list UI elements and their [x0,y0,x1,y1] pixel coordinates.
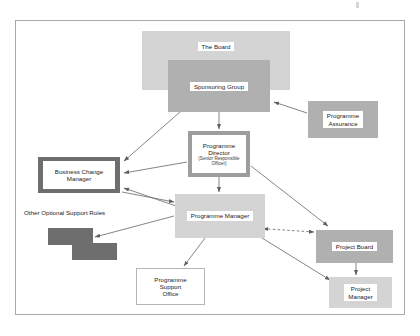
node-business-change-manager[interactable]: Business Change Manager [38,157,120,193]
node-programme-director-title-line2: Director [208,149,230,156]
node-project-board[interactable]: Project Board [316,230,393,263]
node-programme-support-office[interactable]: Programme Support Office [136,268,205,305]
node-programme-assurance-line2: Assurance [328,120,357,127]
node-programme-assurance-line1: Programme [327,112,359,119]
node-project-manager-line2: Manager [348,293,372,300]
node-programme-manager[interactable]: Programme Manager [175,194,265,238]
node-programme-support-office-line3: Office [162,290,178,297]
node-project-manager[interactable]: Project Manager [329,277,392,308]
node-programme-assurance-label: Programme Assurance [323,111,363,128]
scan-artifact [356,2,359,8]
node-project-manager-line1: Project [351,285,370,292]
node-programme-director-inner: Programme Director (Senior Responsible O… [192,135,246,173]
node-programme-director-subtitle-line2: Officer) [212,161,227,166]
node-business-change-manager-inner: Business Change Manager [43,161,115,189]
node-programme-director[interactable]: Programme Director (Senior Responsible O… [188,131,250,177]
node-programme-manager-label: Programme Manager [187,211,253,220]
node-business-change-manager-label: Business Change Manager [55,168,104,183]
node-sponsoring-group[interactable]: Sponsoring Group [168,60,270,112]
node-programme-support-office-line2: Support [160,283,182,290]
node-programme-assurance[interactable]: Programme Assurance [308,101,378,138]
optional-support-roles-label: Other Optional Support Roles [24,209,105,216]
node-the-board-label: The Board [198,42,235,51]
node-optional-support-role-b[interactable] [72,243,117,260]
node-business-change-manager-line1: Business Change [55,168,104,175]
node-programme-support-office-label: Programme Support Office [150,275,190,299]
node-programme-director-title-line1: Programme [203,142,235,149]
node-project-board-label: Project Board [332,242,378,251]
node-project-manager-label: Project Manager [344,284,376,301]
node-business-change-manager-line2: Manager [67,175,91,182]
node-sponsoring-group-label: Sponsoring Group [190,82,248,91]
programme-organisation-diagram: The Board Sponsoring Group Programme Ass… [0,0,420,336]
node-programme-support-office-line1: Programme [154,276,186,283]
